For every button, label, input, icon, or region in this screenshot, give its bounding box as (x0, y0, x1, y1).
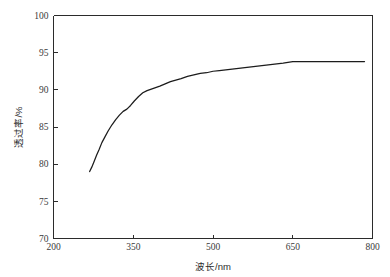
y-tick-label: 100 (34, 11, 49, 21)
x-tick-label: 650 (286, 242, 301, 252)
y-tick-label: 75 (39, 197, 49, 207)
x-tick-label: 200 (46, 242, 61, 252)
y-axis-ticks: 707580859095100 (34, 11, 57, 244)
chart-canvas: 707580859095100 200350500650800 波长/nm 透过… (0, 0, 390, 277)
transmittance-spectrum-chart: 707580859095100 200350500650800 波长/nm 透过… (0, 0, 390, 277)
y-tick-label: 95 (39, 48, 49, 58)
x-tick-label: 500 (206, 242, 221, 252)
transmittance-curve (90, 62, 365, 172)
x-tick-label: 350 (126, 242, 141, 252)
y-tick-label: 80 (39, 159, 49, 169)
y-tick-label: 90 (39, 85, 49, 95)
x-axis-ticks: 200350500650800 (46, 235, 380, 252)
x-axis-title: 波长/nm (195, 261, 231, 272)
x-tick-label: 800 (365, 242, 380, 252)
axis-frame (54, 16, 373, 239)
y-tick-label: 85 (39, 122, 49, 132)
y-axis-title: 透过率/% (13, 106, 24, 148)
